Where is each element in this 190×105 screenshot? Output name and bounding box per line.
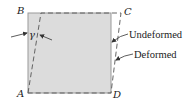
vertex-d-label: D <box>112 89 121 100</box>
gamma-label: γ <box>29 29 35 40</box>
undeformed-label: Undeformed <box>129 29 183 40</box>
shear-strain-diagram: B C A D γ Undeformed Deformed <box>0 0 190 105</box>
undeformed-leader <box>112 34 128 42</box>
vertex-b-label: B <box>16 5 24 16</box>
vertex-c-label: C <box>124 6 132 17</box>
deformed-leader <box>116 54 133 60</box>
undeformed-square <box>28 13 111 93</box>
deformed-label: Deformed <box>134 49 177 60</box>
gamma-arrow-left <box>11 33 27 37</box>
vertex-a-label: A <box>16 88 24 99</box>
